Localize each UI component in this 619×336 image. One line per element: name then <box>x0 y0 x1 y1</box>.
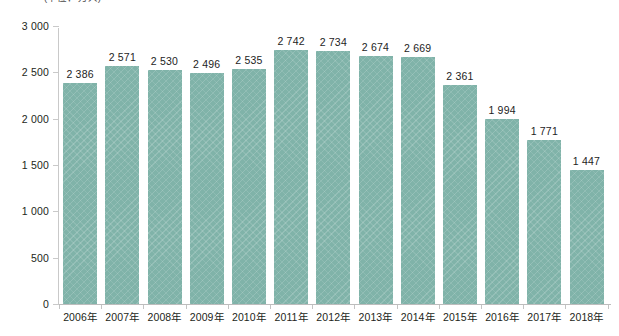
bar-value-label: 1 771 <box>531 126 558 137</box>
bar[interactable] <box>274 50 308 304</box>
bar-value-label: 2 361 <box>446 71 473 82</box>
bar[interactable] <box>190 73 224 304</box>
x-axis-tick <box>228 305 229 309</box>
bar-column[interactable]: 1 994 <box>485 119 519 304</box>
bar-value-label: 2 530 <box>151 56 178 67</box>
x-axis-tick <box>481 305 482 309</box>
bar-column[interactable]: 2 669 <box>401 57 435 304</box>
x-axis-label: 2014年 <box>397 311 439 323</box>
y-axis-label: 3 000 <box>22 21 49 31</box>
bar-value-label: 2 571 <box>109 52 136 63</box>
x-axis-line <box>58 304 611 305</box>
y-axis-label: 2 000 <box>22 114 49 124</box>
x-axis-tick <box>354 305 355 309</box>
x-axis-tick <box>59 305 60 309</box>
y-axis-label: 0 <box>43 299 49 309</box>
bar-value-label: 1 994 <box>488 105 515 116</box>
y-axis-tick <box>53 165 59 166</box>
x-axis-label: 2016年 <box>481 311 523 323</box>
bar-value-label: 2 496 <box>193 59 220 70</box>
x-axis-label: 2007年 <box>101 311 143 323</box>
y-axis-tick <box>53 211 59 212</box>
unit-caption: (单位：万人) <box>44 0 101 3</box>
bar[interactable] <box>527 140 561 304</box>
bar[interactable] <box>63 83 97 304</box>
x-axis-tick <box>143 305 144 309</box>
y-axis-tick <box>53 119 59 120</box>
x-axis-tick <box>312 305 313 309</box>
y-axis-label: 1 000 <box>22 206 49 216</box>
bar[interactable] <box>232 69 266 304</box>
bar-column[interactable]: 2 535 <box>232 69 266 304</box>
x-axis-tick <box>565 305 566 309</box>
bar-chart: (单位：万人) 05001 0001 5002 0002 5003 000 2 … <box>0 0 619 336</box>
x-axis-tick <box>439 305 440 309</box>
bar-column[interactable]: 1 771 <box>527 140 561 304</box>
bar-value-label: 1 447 <box>573 156 600 167</box>
y-axis-tick <box>53 258 59 259</box>
bar-column[interactable]: 2 674 <box>359 56 393 304</box>
bar[interactable] <box>401 57 435 304</box>
bar[interactable] <box>359 56 393 304</box>
bar[interactable] <box>443 85 477 304</box>
bar-value-label: 2 386 <box>66 69 93 80</box>
x-axis-label: 2013年 <box>354 311 396 323</box>
x-axis-label: 2008年 <box>143 311 185 323</box>
x-axis-label: 2009年 <box>186 311 228 323</box>
x-axis-label: 2010年 <box>228 311 270 323</box>
x-axis-label: 2006年 <box>59 311 101 323</box>
x-axis-label: 2015年 <box>439 311 481 323</box>
x-axis-tick <box>101 305 102 309</box>
x-axis-label: 2011年 <box>270 311 312 323</box>
bar-value-label: 2 734 <box>320 37 347 48</box>
x-axis-label: 2012年 <box>312 311 354 323</box>
y-axis-label: 2 500 <box>22 67 49 77</box>
x-axis-tick <box>397 305 398 309</box>
bar-column[interactable]: 2 386 <box>63 83 97 304</box>
y-axis-label: 1 500 <box>22 160 49 170</box>
bar-column[interactable]: 2 571 <box>105 66 139 304</box>
bar-column[interactable]: 1 447 <box>570 170 604 304</box>
y-axis-line <box>58 28 59 305</box>
bar-value-label: 2 669 <box>404 43 431 54</box>
x-axis-tick <box>186 305 187 309</box>
x-axis-label: 2018年 <box>565 311 607 323</box>
bar-column[interactable]: 2 361 <box>443 85 477 304</box>
bar-column[interactable]: 2 530 <box>148 70 182 304</box>
bar[interactable] <box>105 66 139 304</box>
bar-value-label: 2 674 <box>362 42 389 53</box>
y-axis-tick <box>53 72 59 73</box>
x-axis-tick <box>270 305 271 309</box>
x-axis-tick <box>523 305 524 309</box>
bar[interactable] <box>485 119 519 304</box>
x-axis-label: 2017年 <box>523 311 565 323</box>
bar[interactable] <box>570 170 604 304</box>
bar[interactable] <box>148 70 182 304</box>
y-axis-label: 500 <box>31 253 49 263</box>
bar-value-label: 2 535 <box>235 55 262 66</box>
bar-column[interactable]: 2 742 <box>274 50 308 304</box>
bar-value-label: 2 742 <box>277 36 304 47</box>
x-axis-tick <box>608 305 609 309</box>
y-axis-tick <box>53 26 59 27</box>
bar[interactable] <box>316 51 350 304</box>
bar-column[interactable]: 2 496 <box>190 73 224 304</box>
bar-column[interactable]: 2 734 <box>316 51 350 304</box>
